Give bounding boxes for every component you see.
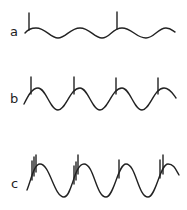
wave-a [25, 28, 175, 38]
spike-wave-diagram [0, 0, 187, 210]
wave-c [27, 164, 179, 197]
trace-c [27, 155, 179, 197]
wave-b [24, 88, 176, 110]
trace-a [25, 12, 175, 38]
trace-b [24, 77, 176, 110]
